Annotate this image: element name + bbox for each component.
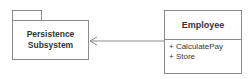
package-persistence-subsystem[interactable]: Persistence Subsystem xyxy=(12,20,89,60)
package-name-line-2: Subsystem xyxy=(28,40,73,51)
package-name-line-1: Persistence xyxy=(27,29,75,40)
class-name: Employee xyxy=(165,11,241,40)
operation-calculate-pay: + CalculatePay xyxy=(169,42,223,52)
class-employee[interactable]: Employee + CalculatePay + Store xyxy=(164,10,242,74)
operation-store: + Store xyxy=(169,52,223,62)
class-operations: + CalculatePay + Store xyxy=(169,42,223,62)
